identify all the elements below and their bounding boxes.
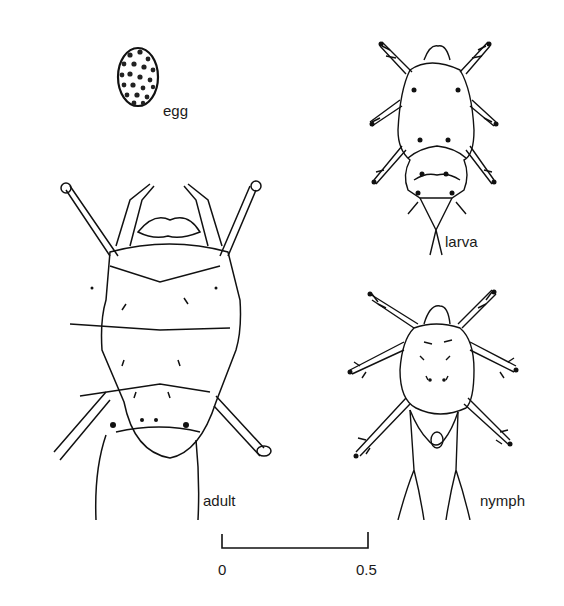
adult-label: adult [203,493,236,508]
adult-drawing [50,170,310,520]
nymph-label: nymph [480,493,525,508]
life-stages-figure: egg [0,0,564,606]
nymph-drawing [340,280,540,520]
egg-drawing [110,40,170,120]
scale-end-label: 0.5 [356,562,377,577]
scale-start-label: 0 [218,562,226,577]
scale-bar [220,530,372,550]
egg-label: egg [163,103,188,118]
larva-label: larva [445,234,478,249]
larva-drawing [360,30,500,260]
